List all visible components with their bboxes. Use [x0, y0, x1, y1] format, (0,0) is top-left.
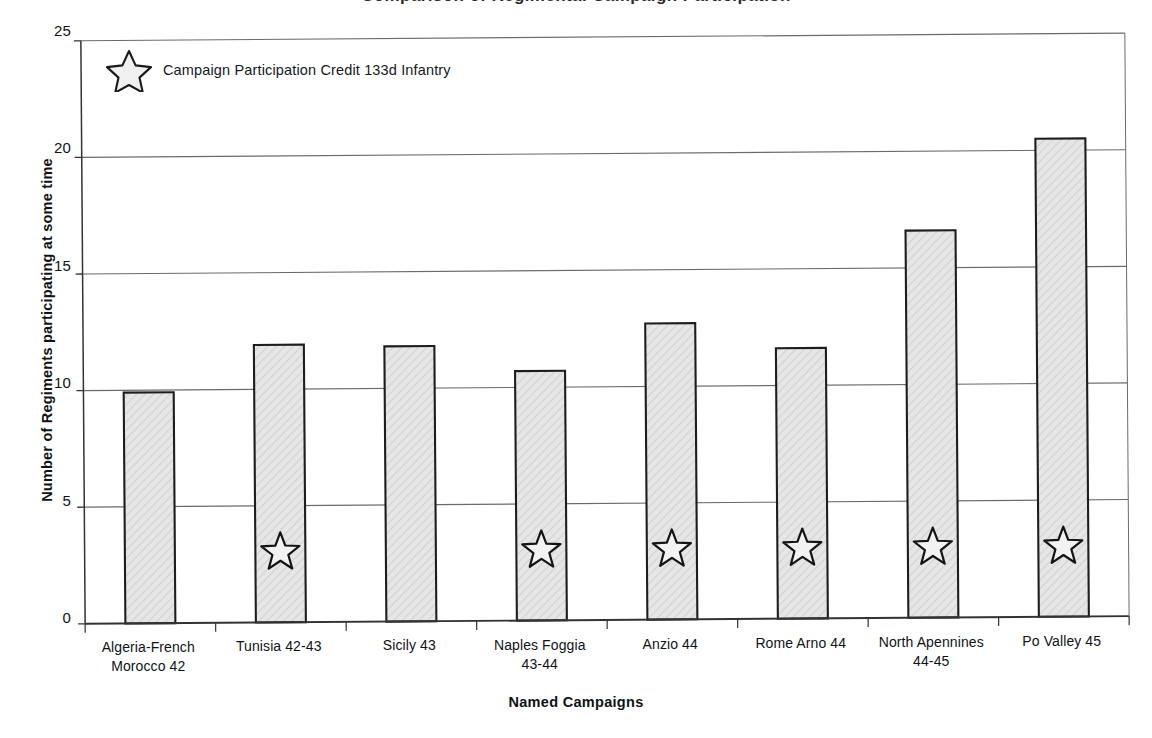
x-category-label: Anzio 44: [599, 635, 742, 654]
y-tick-label: 20: [27, 139, 71, 156]
bar[interactable]: [906, 230, 959, 617]
x-category-label: Algeria-FrenchMorocco 42: [77, 638, 220, 676]
legend: Campaign Participation Credit 133d Infan…: [106, 48, 451, 92]
gridline: [84, 500, 1128, 508]
y-tick-label: 25: [27, 22, 71, 39]
bar[interactable]: [124, 392, 176, 623]
y-tick-label: 0: [27, 609, 71, 626]
bar[interactable]: [645, 323, 697, 620]
bar-chart-figure: Comparison of Regimental Campaign Partic…: [0, 0, 1152, 738]
legend-label: Campaign Participation Credit 133d Infan…: [163, 62, 451, 78]
plot-area: [0, 0, 1152, 738]
gridline: [83, 266, 1127, 274]
gridlines: [81, 33, 1128, 507]
y-axis-line: [81, 41, 85, 624]
gridline: [83, 383, 1127, 391]
bar[interactable]: [515, 371, 567, 621]
y-tick-label: 15: [27, 257, 71, 274]
axis-lines: [81, 33, 1129, 624]
x-category-label: Tunisia 42-43: [208, 637, 351, 656]
bar[interactable]: [776, 348, 828, 619]
y-tick-label: 10: [27, 374, 71, 391]
x-category-label: Rome Arno 44: [730, 634, 873, 653]
x-axis-ticks: [85, 616, 1129, 633]
y-tick-label: 5: [27, 492, 71, 509]
x-category-label: Naples Foggia43-44: [469, 636, 612, 674]
x-category-label: Po Valley 45: [991, 632, 1134, 651]
bar[interactable]: [384, 346, 436, 622]
plot-right-edge: [1125, 33, 1129, 616]
x-category-label: North Apennines44-45: [860, 633, 1003, 671]
x-category-label: Sicily 43: [338, 636, 481, 655]
gridline: [82, 150, 1126, 158]
bar[interactable]: [254, 345, 306, 623]
gridline: [81, 33, 1125, 41]
star-icon: [106, 48, 152, 92]
